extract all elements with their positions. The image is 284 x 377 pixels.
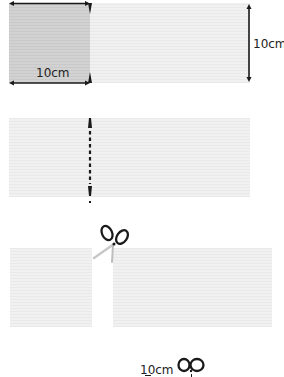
width-arrow-top-icon	[0, 0, 284, 100]
height-label: 10cm	[253, 37, 284, 51]
tick-mark	[145, 375, 151, 376]
cut-piece	[10, 248, 92, 327]
scissors-icon	[174, 357, 214, 377]
scissors-icon	[90, 222, 150, 272]
dashed-cut-line-icon	[0, 100, 284, 210]
width-label: 10cm	[36, 66, 70, 80]
